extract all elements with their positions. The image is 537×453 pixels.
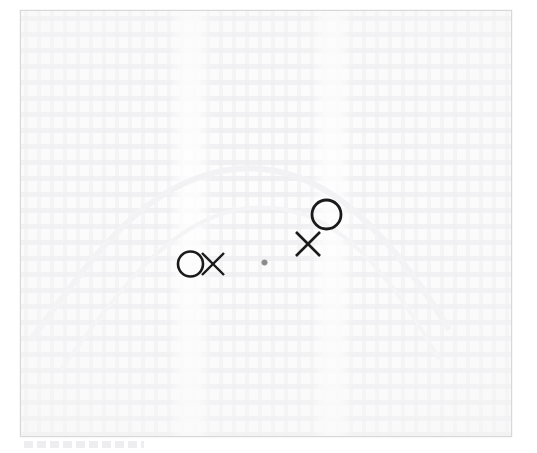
screenshot-root xyxy=(0,0,537,453)
ghost-column-gutters xyxy=(21,11,511,436)
ghost-arc-shape xyxy=(21,11,511,436)
ghost-text-texture xyxy=(21,11,511,436)
paper-vignette xyxy=(21,11,511,436)
scanned-page-frame xyxy=(20,10,512,437)
caption-ghost-text xyxy=(24,441,144,448)
